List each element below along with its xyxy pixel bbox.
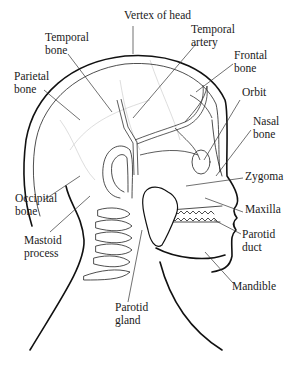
label-orbit: Orbit (242, 86, 267, 98)
orbit-shape (192, 150, 210, 174)
label-parotid-duct: Parotidduct (242, 228, 275, 253)
label-mandible: Mandible (232, 280, 276, 292)
ear (103, 146, 133, 198)
label-nasal-bone: Nasalbone (253, 115, 279, 140)
label-frontal-bone: Frontalbone (234, 49, 267, 74)
parotid-gland-shape (143, 187, 178, 246)
label-vertex-of-head: Vertex of head (124, 9, 191, 21)
leader-lines (44, 26, 251, 302)
skull-sutures (60, 60, 180, 180)
labels: Vertex of head Temporalbone Temporalarte… (14, 9, 283, 327)
label-parietal-bone: Parietalbone (14, 70, 49, 95)
label-zygoma: Zygoma (245, 170, 283, 183)
label-parotid-gland: Parotidgland (115, 301, 148, 327)
head-anatomy-diagram: Vertex of head Temporalbone Temporalarte… (0, 0, 293, 369)
label-occipital-bone: Occipitalbone (15, 192, 57, 217)
label-temporal-bone: Temporalbone (45, 31, 89, 56)
label-temporal-artery: Temporalartery (191, 23, 235, 49)
cervical-vertebrae (84, 208, 132, 280)
label-maxilla: Maxilla (245, 203, 281, 215)
label-mastoid-process: Mastoidprocess (24, 234, 62, 260)
